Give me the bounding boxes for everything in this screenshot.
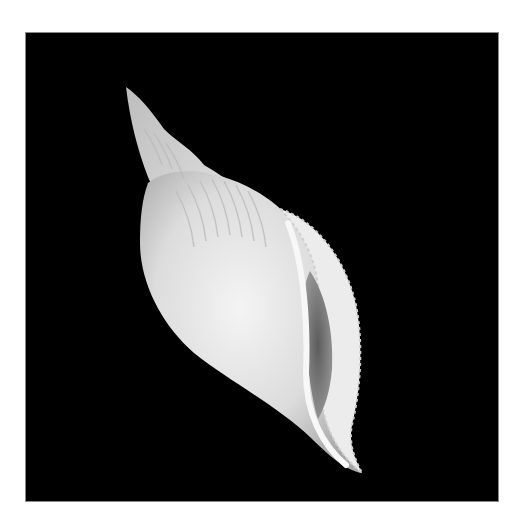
shell-illustration [26, 33, 498, 501]
shell-photo [26, 33, 498, 501]
